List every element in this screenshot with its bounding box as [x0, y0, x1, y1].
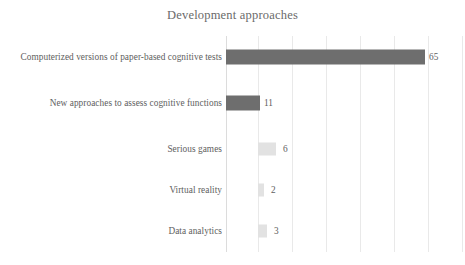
bar-track: [258, 225, 267, 238]
bar-track: [258, 143, 276, 156]
category-label: Computerized versions of paper-based cog…: [21, 52, 222, 62]
bar-row: New approaches to assess cognitive funct…: [0, 83, 465, 123]
bar[interactable]: [258, 184, 264, 197]
bar-track: [226, 50, 425, 65]
bar[interactable]: [258, 225, 267, 238]
bar[interactable]: [258, 143, 276, 156]
bar-value-label: 11: [264, 98, 273, 108]
bar-track: [226, 96, 260, 111]
bar-row: Data analytics 3: [0, 211, 465, 251]
bar[interactable]: [226, 50, 425, 65]
bar-value-label: 2: [271, 185, 276, 195]
bar-row: Serious games 6: [0, 129, 465, 169]
bar[interactable]: [226, 96, 260, 111]
category-label: Data analytics: [168, 226, 222, 236]
bar-value-label: 65: [429, 52, 438, 62]
category-label: Serious games: [167, 144, 222, 154]
category-label: Virtual reality: [169, 185, 222, 195]
bar-chart: Development approaches Computerized vers…: [0, 0, 465, 265]
bar-track: [258, 184, 264, 197]
bar-row: Computerized versions of paper-based cog…: [0, 37, 465, 77]
bar-value-label: 6: [283, 144, 288, 154]
category-label: New approaches to assess cognitive funct…: [50, 98, 222, 108]
bar-row: Virtual reality 2: [0, 170, 465, 210]
bar-value-label: 3: [274, 226, 279, 236]
chart-title: Development approaches: [0, 8, 465, 23]
